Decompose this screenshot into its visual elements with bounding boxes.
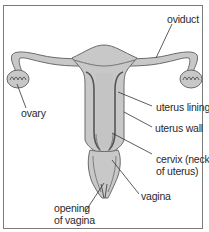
cervix-vagina: [88, 150, 120, 198]
label-vagina: vagina: [141, 191, 171, 202]
label-oviduct: oviduct: [167, 14, 199, 25]
label-uterus-wall: uterus wall: [155, 123, 203, 134]
label-opening-line2: of vagina: [54, 215, 95, 226]
label-cervix-line1: cervix (neck: [156, 154, 209, 165]
uterus: [72, 45, 137, 154]
label-uterus-lining: uterus lining: [156, 102, 209, 113]
right-ovary: [180, 70, 202, 88]
label-opening-line1: opening: [54, 203, 90, 214]
leader-oviduct: [156, 24, 172, 58]
leader-uterus-wall: [124, 112, 152, 127]
left-ovary: [7, 70, 29, 88]
label-cervix-line2: of uterus): [156, 166, 198, 177]
label-ovary: ovary: [21, 108, 46, 119]
